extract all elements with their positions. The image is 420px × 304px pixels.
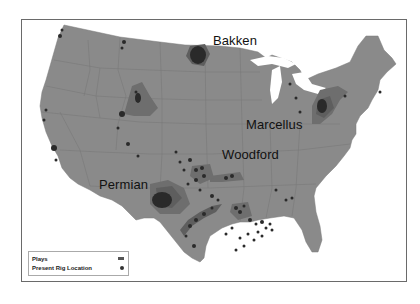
legend-item-rig-location: Present Rig Location (32, 264, 126, 272)
legend-item-plays: Plays (32, 255, 126, 263)
us-landmass (40, 25, 396, 262)
map-legend: Plays Present Rig Location (28, 251, 129, 276)
rig-dot-icon (120, 266, 124, 270)
legend-label-rig-location: Present Rig Location (32, 265, 92, 271)
plays-swatch-icon (118, 257, 124, 260)
map-label-bakken: Bakken (213, 33, 257, 48)
map-label-marcellus: Marcellus (246, 117, 303, 132)
map-label-woodford: Woodford (222, 147, 279, 162)
map-label-permian: Permian (99, 177, 148, 192)
legend-label-plays: Plays (32, 256, 48, 262)
